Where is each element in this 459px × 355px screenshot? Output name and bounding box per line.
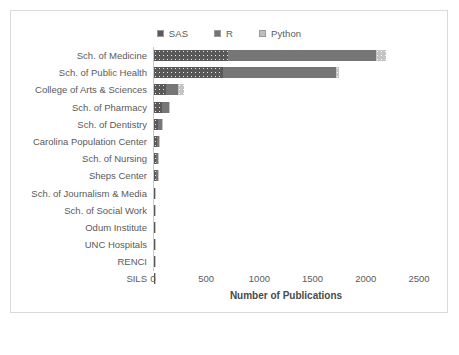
x-tick-label: 2500: [408, 273, 429, 284]
plot-area: [153, 47, 419, 271]
bar-segment-r[interactable]: [223, 67, 336, 78]
x-axis-title: Number of Publications: [153, 290, 419, 301]
x-tick-label: 500: [198, 273, 214, 284]
category-label: Sch. of Journalism & Media: [11, 185, 153, 202]
x-tick-label: 0: [150, 273, 155, 284]
bar-stack[interactable]: [154, 188, 156, 199]
category-axis-labels: Sch. of MedicineSch. of Public HealthCol…: [11, 47, 153, 288]
bar-stack[interactable]: [154, 239, 155, 250]
plot-wrapper: Sch. of MedicineSch. of Public HealthCol…: [11, 11, 447, 312]
bar-stack[interactable]: [154, 136, 159, 147]
bar-stack[interactable]: [154, 102, 170, 113]
bar-segment-python[interactable]: [162, 119, 163, 130]
bar-stack[interactable]: [154, 119, 163, 130]
category-label: UNC Hospitals: [11, 236, 153, 253]
bar-segment-sas[interactable]: [154, 102, 162, 113]
bar-stack[interactable]: [154, 67, 339, 78]
bar-row: [153, 236, 419, 253]
x-tick-label: 1500: [302, 273, 323, 284]
bar-row: [153, 219, 419, 236]
category-label: Sch. of Medicine: [11, 47, 153, 64]
bar-stack[interactable]: [154, 84, 184, 95]
bar-row: [153, 81, 419, 98]
bar-segment-sas[interactable]: [154, 67, 223, 78]
bar-row: [153, 253, 419, 270]
category-label: RENCI: [11, 253, 153, 270]
bar-segment-r[interactable]: [162, 102, 169, 113]
bar-stack[interactable]: [154, 50, 386, 61]
bar-segment-sas[interactable]: [154, 50, 228, 61]
category-label: Sch. of Public Health: [11, 64, 153, 81]
bar-row: [153, 116, 419, 133]
bar-segment-python[interactable]: [178, 84, 184, 95]
bar-row: [153, 47, 419, 64]
bar-segment-sas[interactable]: [154, 84, 166, 95]
bar-row: [153, 167, 419, 184]
chart-container: SASRPython Sch. of MedicineSch. of Publi…: [10, 10, 448, 313]
category-label: Sch. of Dentistry: [11, 116, 153, 133]
x-tick-label: 2000: [355, 273, 376, 284]
category-label: Sheps Center: [11, 167, 153, 184]
bar-segment-python[interactable]: [336, 67, 339, 78]
category-label: Sch. of Pharmacy: [11, 99, 153, 116]
bar-segment-r[interactable]: [228, 50, 376, 61]
category-label: Sch. of Nursing: [11, 150, 153, 167]
bar-stack[interactable]: [154, 222, 155, 233]
bar-row: [153, 185, 419, 202]
category-label: College of Arts & Sciences: [11, 81, 153, 98]
category-label: Sch. of Social Work: [11, 202, 153, 219]
bar-stack[interactable]: [154, 170, 159, 181]
value-axis-ticks: 05001000150020002500: [153, 273, 419, 287]
x-tick-label: 1000: [249, 273, 270, 284]
bar-row: [153, 150, 419, 167]
bar-segment-r[interactable]: [166, 84, 178, 95]
bar-row: [153, 64, 419, 81]
bar-row: [153, 133, 419, 150]
bar-row: [153, 99, 419, 116]
bar-row: [153, 202, 419, 219]
bar-stack[interactable]: [154, 153, 158, 164]
category-label: SILS: [11, 270, 153, 287]
bar-stack[interactable]: [154, 256, 155, 267]
bar-segment-python[interactable]: [376, 50, 386, 61]
category-label: Carolina Population Center: [11, 133, 153, 150]
bar-segment-python[interactable]: [169, 102, 171, 113]
category-label: Odum Institute: [11, 219, 153, 236]
bar-stack[interactable]: [154, 205, 155, 216]
